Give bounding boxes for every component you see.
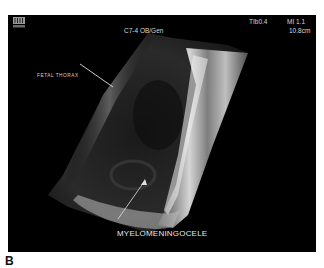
ultrasound-image-panel: C7-4 OB/Gen TIb0.4 MI 1.1 10.8cm bbox=[8, 15, 316, 252]
myelomeningocele-annotation: MYELOMENINGOCELE bbox=[117, 229, 207, 238]
fetal-thorax-annotation: FETAL THORAX bbox=[37, 73, 79, 78]
figure-panel-letter: B bbox=[5, 254, 14, 268]
ultrasound-scan-image bbox=[8, 15, 316, 252]
